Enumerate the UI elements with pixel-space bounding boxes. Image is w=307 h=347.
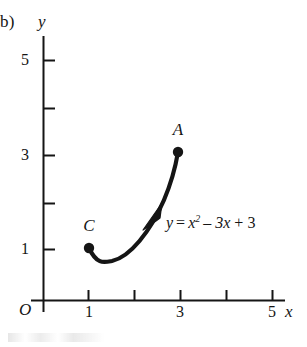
parabola-curve bbox=[89, 152, 178, 262]
point-marker-A bbox=[173, 147, 183, 157]
point-marker-C bbox=[84, 243, 94, 253]
plot-drawing bbox=[0, 0, 307, 347]
scan-artifact bbox=[8, 333, 104, 342]
figure-container: b) y x O 5 3 1 1 3 5 A C y=x2–3x+3 bbox=[0, 0, 307, 347]
